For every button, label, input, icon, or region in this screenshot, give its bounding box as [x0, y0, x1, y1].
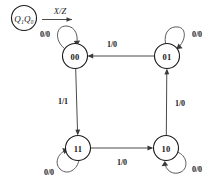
- state-diagram-svg: Q₁Q₀ X/Z 0/0 0/0 0/0 0/0: [0, 0, 216, 184]
- transition-11-to-10: 1/0: [91, 146, 154, 167]
- transition-00-to-11: 1/1: [58, 69, 80, 136]
- transition-10-to-01-label: 1/0: [175, 99, 185, 108]
- self-loop-11-label: 0/0: [44, 168, 54, 177]
- transition-11-to-10-label: 1/0: [117, 158, 127, 167]
- legend-state-notation: Q₁Q₀: [14, 14, 33, 24]
- transition-11-to-10-arrow-icon: [148, 146, 154, 151]
- transition-01-to-00-arrow-icon: [88, 54, 94, 59]
- self-loop-10-arrow-icon: [162, 161, 169, 166]
- self-loop-10-label: 0/0: [192, 165, 202, 174]
- legend-transition-notation: X/Z: [53, 6, 67, 16]
- self-loop-01-label: 0/0: [192, 30, 202, 39]
- legend-arrow-head-icon: [67, 17, 73, 22]
- transition-01-to-00-label: 1/0: [107, 40, 117, 49]
- transition-01-to-00: 1/0: [88, 40, 155, 59]
- transition-10-to-01: 1/0: [164, 69, 185, 136]
- transition-00-to-11-label: 1/1: [58, 97, 68, 106]
- state-node-10-label: 10: [162, 144, 171, 154]
- state-node-01[interactable]: 01: [155, 44, 180, 69]
- state-node-11-label: 11: [74, 144, 82, 154]
- state-node-00[interactable]: 00: [63, 44, 88, 69]
- state-node-10[interactable]: 10: [154, 136, 179, 161]
- transition-00-to-11-arrow-icon: [75, 130, 80, 136]
- state-node-11[interactable]: 11: [66, 136, 91, 161]
- state-node-01-label: 01: [163, 52, 172, 62]
- transition-10-to-01-arrow-icon: [164, 69, 169, 75]
- state-node-00-label: 00: [71, 52, 80, 62]
- state-diagram-canvas: Q₁Q₀ X/Z 0/0 0/0 0/0 0/0: [0, 0, 216, 184]
- transition-10-to-01-line: [166, 70, 167, 136]
- self-loop-00-label: 0/0: [40, 30, 50, 39]
- transition-00-to-11-line: [76, 69, 78, 135]
